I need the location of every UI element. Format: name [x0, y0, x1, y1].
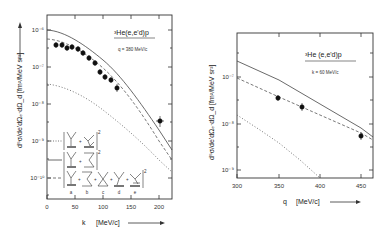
figure: 10⁻⁶ 10⁻⁷ 10⁻⁸ 10⁻⁹ 10⁻¹⁰ 0 50 100 150 2… — [0, 0, 388, 243]
left-chart: 10⁻⁶ 10⁻⁷ 10⁻⁸ 10⁻⁹ 10⁻¹⁰ 0 50 100 150 2… — [16, 15, 172, 227]
left-xtick-label: 100 — [98, 204, 109, 210]
svg-text:2: 2 — [98, 150, 101, 155]
left-reaction-title: ³He(e,e'd)p — [114, 29, 149, 37]
diagram-a-icon — [67, 132, 76, 148]
svg-text:2: 2 — [144, 169, 147, 174]
left-q-value: q = 380 MeV/c — [118, 47, 148, 52]
left-y-ticks — [47, 30, 172, 195]
left-xlabel: k — [82, 219, 86, 226]
right-ytick-label: 10⁻⁹ — [222, 167, 235, 173]
left-xtick-label: 50 — [72, 204, 79, 210]
left-dashed-curve — [47, 39, 172, 160]
svg-text:2: 2 — [98, 130, 101, 135]
diagram-b-icon — [84, 153, 94, 167]
diagram-c-icon — [98, 172, 108, 186]
svg-text:+: + — [110, 177, 113, 182]
right-xtick-label: 350 — [274, 183, 285, 189]
diagram-b-prime-icon — [84, 135, 94, 148]
left-legend: + 2 + 2 + — [48, 130, 147, 195]
left-ytick-label: 10⁻⁸ — [32, 101, 45, 107]
right-dashed-curve — [237, 78, 373, 140]
left-xtick-label: 150 — [126, 204, 137, 210]
right-xaxis-arrow — [330, 200, 361, 204]
diagram-label-c: c — [102, 190, 105, 195]
right-k-value: k = 60 MeV/c — [312, 70, 339, 75]
left-xunit: [MeV/c] — [96, 219, 120, 227]
svg-text:+: + — [94, 177, 97, 182]
right-dotted-curve — [237, 115, 320, 178]
diagram-label-d: d — [118, 190, 121, 195]
right-chart: 10⁻⁷ 10⁻⁸ 10⁻⁹ 300 350 400 450 q [MeV/c]… — [208, 33, 373, 206]
left-xaxis-arrow — [128, 221, 165, 225]
diagram-a-icon — [67, 171, 76, 186]
left-xtick-label: 200 — [154, 204, 165, 210]
left-dotted-curve — [47, 84, 172, 172]
right-xunit: [MeV/c] — [296, 198, 320, 206]
diagram-label-a: a — [70, 190, 73, 195]
left-ytick-label: 10⁻¹⁰ — [30, 175, 45, 181]
diagram-a-icon — [67, 152, 76, 168]
diagram-e-icon — [130, 173, 141, 187]
left-ylabel: d⁵σ/de'dΩₑ·dΩ_d [fm²/MeV sr²] — [16, 52, 24, 148]
left-ytick-label: 10⁻⁶ — [32, 27, 45, 33]
left-ytick-label: 10⁻⁷ — [32, 64, 44, 70]
right-ytick-label: 10⁻⁷ — [222, 74, 234, 80]
right-xtick-label: 300 — [232, 183, 243, 189]
left-plot-frame — [47, 15, 172, 199]
diagram-label-b: b — [86, 190, 89, 195]
right-solid-curve — [237, 61, 373, 137]
svg-text:+: + — [78, 177, 81, 182]
svg-text:+: + — [79, 159, 82, 164]
diagram-label-e: e — [134, 190, 137, 195]
diagram-d-icon — [114, 172, 124, 187]
right-reaction-title: ³He (e,e'd)p — [305, 51, 342, 59]
right-ytick-label: 10⁻⁸ — [222, 121, 235, 127]
right-xlabel: q — [283, 198, 287, 206]
svg-text:+: + — [126, 177, 129, 182]
right-ylabel: d⁵σ/de'dΩₑ·dΩ_d [fm²/MeV sr²] — [208, 64, 216, 160]
diagram-b-icon — [82, 172, 92, 186]
left-ytick-label: 10⁻⁹ — [32, 138, 45, 144]
svg-text:+: + — [79, 139, 82, 144]
right-xtick-label: 400 — [315, 183, 326, 189]
right-xtick-label: 450 — [356, 183, 367, 189]
left-xtick-label: 0 — [45, 204, 49, 210]
